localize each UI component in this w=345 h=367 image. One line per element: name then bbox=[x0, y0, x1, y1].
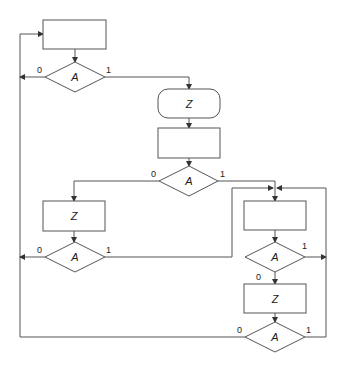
svg-text:0: 0 bbox=[256, 272, 261, 282]
svg-text:A: A bbox=[270, 251, 278, 263]
svg-text:1: 1 bbox=[306, 325, 311, 335]
svg-text:Z: Z bbox=[271, 293, 280, 305]
connector-d2-yes bbox=[218, 181, 275, 188]
svg-text:Z: Z bbox=[70, 210, 79, 222]
process-z-left: Z bbox=[43, 201, 105, 231]
process-z-right: Z bbox=[244, 284, 306, 313]
svg-text:0: 0 bbox=[151, 169, 156, 179]
svg-text:A: A bbox=[184, 175, 192, 187]
svg-text:1: 1 bbox=[302, 241, 307, 251]
connector-d2-no bbox=[74, 181, 159, 201]
svg-text:A: A bbox=[70, 71, 78, 83]
decision-diamond-left: A 0 1 bbox=[37, 242, 111, 272]
process-box-top bbox=[43, 20, 106, 49]
svg-text:0: 0 bbox=[37, 245, 42, 255]
connector-d1-yes bbox=[105, 77, 189, 89]
svg-text:0: 0 bbox=[237, 325, 242, 335]
svg-text:Z: Z bbox=[185, 98, 194, 110]
svg-text:1: 1 bbox=[106, 245, 111, 255]
decision-diamond-2: A 0 1 bbox=[151, 166, 225, 196]
svg-text:A: A bbox=[270, 331, 278, 343]
terminal-z: Z bbox=[158, 89, 220, 118]
flowchart-canvas: A 0 1 Z A 0 1 Z A 0 1 A 0 1 bbox=[0, 0, 345, 367]
decision-diamond-right-2: A 0 1 bbox=[237, 322, 311, 352]
svg-text:1: 1 bbox=[106, 65, 111, 75]
decision-diamond-right-1: A 0 1 bbox=[245, 241, 307, 282]
process-box-mid bbox=[158, 128, 220, 158]
decision-diamond-1: A 0 1 bbox=[37, 62, 111, 92]
loop-back-to-top bbox=[20, 34, 43, 337]
svg-text:A: A bbox=[70, 251, 78, 263]
svg-text:0: 0 bbox=[37, 65, 42, 75]
process-box-right bbox=[244, 201, 306, 230]
svg-text:1: 1 bbox=[220, 169, 225, 179]
